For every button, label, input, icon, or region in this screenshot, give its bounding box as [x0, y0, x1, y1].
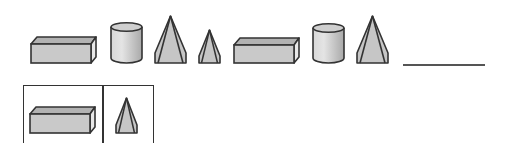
table-divider: [102, 86, 104, 143]
sequence-shape-1-rectangular-prism: [30, 36, 97, 64]
sequence-shape-4-pyramid-small: [198, 29, 221, 64]
sequence-shape-6-cylinder: [312, 23, 345, 64]
sequence-shape-3-pyramid-large: [154, 15, 187, 64]
answer-option-2-pyramid-small[interactable]: [115, 97, 138, 134]
answer-blank-line[interactable]: [403, 64, 485, 66]
answer-option-1-rectangular-prism[interactable]: [29, 106, 96, 134]
sequence-shape-7-pyramid-large: [356, 15, 389, 64]
sequence-shape-5-rectangular-prism: [233, 37, 300, 64]
sequence-shape-2-cylinder: [110, 22, 143, 64]
